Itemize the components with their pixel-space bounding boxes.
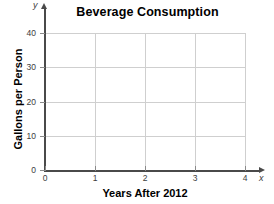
x-tick-mark xyxy=(195,166,196,171)
x-tick-label: 3 xyxy=(185,173,205,183)
x-tick-label: 1 xyxy=(85,173,105,183)
beverage-consumption-chart: Beverage Consumption y x 010203040 01234… xyxy=(0,0,274,204)
gridline-vertical xyxy=(245,33,246,170)
y-tick-mark xyxy=(40,102,45,103)
x-tick-label: 4 xyxy=(235,173,255,183)
gridline-vertical xyxy=(195,33,196,170)
gridline-vertical xyxy=(145,33,146,170)
x-tick-mark xyxy=(145,166,146,171)
y-tick-mark xyxy=(40,136,45,137)
x-axis-line xyxy=(44,170,260,172)
x-axis-symbol: x xyxy=(259,173,264,183)
chart-title: Beverage Consumption xyxy=(45,5,250,19)
y-axis-symbol: y xyxy=(33,0,38,10)
x-tick-label: 2 xyxy=(135,173,155,183)
y-axis-arrow-icon xyxy=(41,3,47,9)
gridline-vertical xyxy=(95,33,96,170)
x-tick-mark xyxy=(245,166,246,171)
x-axis-title: Years After 2012 xyxy=(45,187,245,199)
y-tick-mark xyxy=(40,33,45,34)
x-tick-mark xyxy=(95,166,96,171)
x-tick-mark xyxy=(45,166,46,171)
x-tick-label: 0 xyxy=(35,173,55,183)
y-tick-mark xyxy=(40,67,45,68)
plot-area xyxy=(45,33,245,170)
y-axis-title: Gallons per Person xyxy=(12,29,24,169)
